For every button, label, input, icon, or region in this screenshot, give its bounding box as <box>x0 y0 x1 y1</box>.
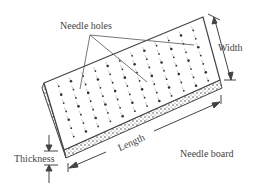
needle-board-drawing <box>0 0 262 193</box>
needle-holes-label: Needle holes <box>60 20 112 31</box>
needle-board-label: Needle board <box>180 148 234 159</box>
needle-board-diagram: Needle holes Width Length Thickness Need… <box>0 0 262 193</box>
thickness-label: Thickness <box>14 153 55 164</box>
width-label: Width <box>218 42 243 53</box>
board-top-face <box>44 17 220 150</box>
